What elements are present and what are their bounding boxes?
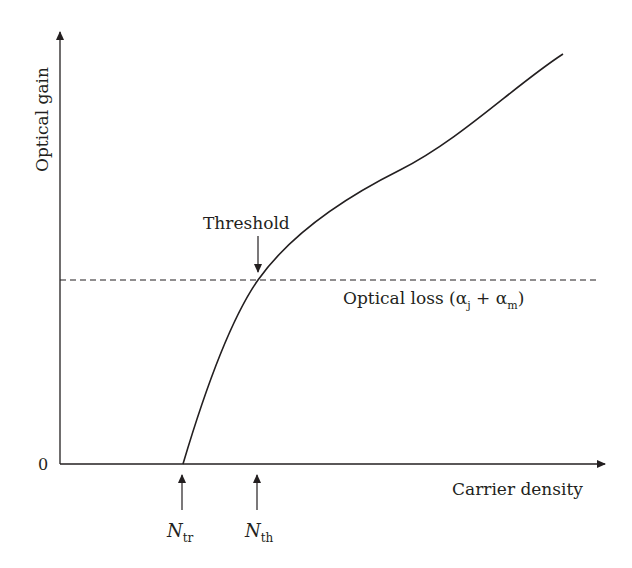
ntr-label: Ntr: [166, 520, 194, 545]
gain-curve: [183, 54, 563, 464]
loss-close: ): [518, 288, 525, 308]
nth-sub: th: [261, 531, 274, 545]
loss-plus: +: [471, 288, 496, 308]
loss-sub-m: m: [507, 299, 518, 312]
loss-label-main: Optical loss (: [343, 288, 456, 308]
ntr-sub: tr: [183, 531, 194, 545]
ntr-main: N: [166, 520, 184, 541]
loss-alpha-j: α: [456, 288, 468, 308]
x-axis-label: Carrier density: [452, 479, 583, 499]
optical-loss-label: Optical loss (αj + αm): [343, 288, 524, 312]
y-axis-label: Optical gain: [32, 67, 52, 172]
nth-main: N: [244, 520, 262, 541]
threshold-label: Threshold: [203, 213, 290, 233]
nth-label: Nth: [244, 520, 274, 545]
loss-alpha-m: α: [496, 288, 508, 308]
origin-zero-label: 0: [38, 455, 48, 474]
gain-threshold-diagram: Optical gain 0 Carrier density Threshold…: [0, 0, 632, 568]
